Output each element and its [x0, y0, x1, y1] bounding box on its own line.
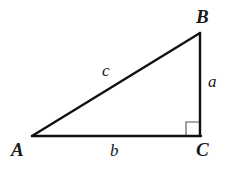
vertex-label-b: B — [196, 7, 209, 26]
side-c-hypotenuse — [32, 33, 200, 136]
vertex-label-a: A — [11, 140, 24, 159]
right-triangle-figure: A B C a b c — [0, 0, 232, 171]
right-angle-marker — [186, 122, 200, 136]
side-label-b: b — [110, 142, 119, 159]
side-label-c: c — [102, 62, 110, 79]
vertex-label-c: C — [196, 140, 209, 159]
side-label-a: a — [208, 73, 217, 90]
